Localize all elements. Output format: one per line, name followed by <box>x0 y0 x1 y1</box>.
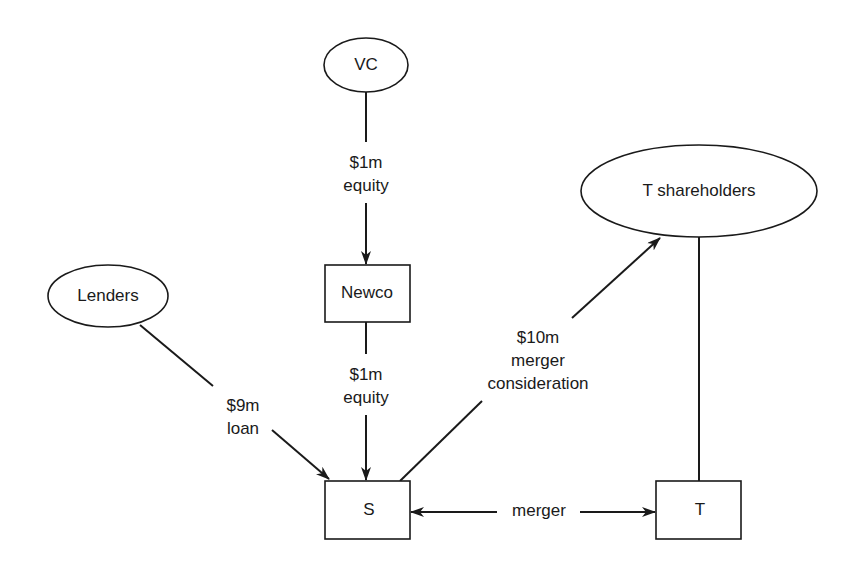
edge-newco-to-s: $1m equity <box>343 322 389 480</box>
edge-line <box>400 401 482 481</box>
edge-label-amount: $1m <box>349 365 382 384</box>
edge-label-amount: $1m <box>349 153 382 172</box>
edge-s-to-t-shareholders: $10m merger consideration <box>400 238 660 481</box>
edge-label-amount: $9m <box>226 396 259 415</box>
edge-label-type: equity <box>343 388 389 407</box>
arrow-diagonal-icon <box>272 430 329 479</box>
edge-label-type-cont: consideration <box>487 374 588 393</box>
edge-line <box>140 325 213 386</box>
node-label: Lenders <box>77 286 138 305</box>
node-label: Newco <box>341 283 393 302</box>
node-t-shareholders: T shareholders <box>581 145 817 237</box>
edge-vc-to-newco: $1m equity <box>343 92 389 264</box>
node-label: S <box>363 500 374 519</box>
edge-label-type: loan <box>227 419 259 438</box>
leveraged-buyout-diagram: $1m equity $1m equity $9m loan $10m merg… <box>0 0 855 577</box>
edge-s-t-merger: merger <box>411 501 655 520</box>
node-t: T <box>656 481 741 539</box>
node-vc: VC <box>324 38 408 92</box>
edge-label-type: merger <box>511 351 565 370</box>
node-label: T shareholders <box>642 181 755 200</box>
edge-label-amount: $10m <box>517 328 560 347</box>
node-s: S <box>325 481 410 539</box>
arrow-diagonal-icon <box>572 238 660 318</box>
node-label: VC <box>354 55 378 74</box>
edge-label-type: equity <box>343 176 389 195</box>
edge-label-merger: merger <box>512 501 566 520</box>
node-newco: Newco <box>325 265 410 322</box>
node-lenders: Lenders <box>48 265 168 327</box>
node-label: T <box>695 500 705 519</box>
edge-lenders-to-s: $9m loan <box>140 325 329 479</box>
